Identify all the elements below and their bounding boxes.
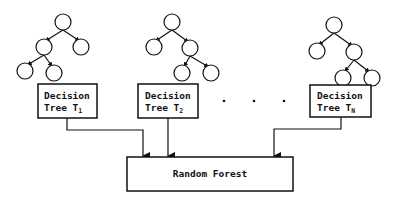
connector-tree-n: [274, 117, 341, 156]
ellipsis-dot: [223, 100, 226, 103]
tree-edge: [29, 55, 44, 64]
ellipsis-dots: [223, 100, 286, 103]
tree-n-graph: [309, 17, 380, 86]
connector-tree-1: [67, 118, 143, 156]
tree-1-graph: [17, 14, 89, 81]
tree-node: [36, 39, 52, 55]
tree-node: [335, 70, 351, 86]
tree-node: [46, 65, 62, 81]
tree-edge: [47, 30, 63, 40]
random-forest-diagram: Decision Tree T1 Decision Tree T2 Decisi…: [0, 0, 394, 202]
tree-edge: [334, 33, 351, 45]
tree-edge: [354, 60, 368, 71]
tree-n-subscript: N: [351, 107, 355, 115]
tree-2-graph: [146, 14, 219, 81]
tree-1-label-line1: Decision: [44, 90, 90, 101]
tree-node: [309, 43, 325, 59]
tree-edge: [320, 33, 334, 44]
decision-tree-n-box: Decision Tree TN: [310, 85, 371, 117]
random-forest-label: Random Forest: [173, 168, 247, 179]
tree-edge: [190, 56, 207, 66]
decision-tree-2-box: Decision Tree T2: [138, 84, 198, 118]
tree-node: [203, 65, 219, 81]
tree-node: [164, 14, 180, 30]
tree-edge: [172, 30, 187, 41]
tree-2-label-line1: Decision: [145, 90, 191, 101]
tree-node: [364, 70, 380, 86]
tree-edge: [157, 30, 172, 40]
random-forest-box: Random Forest: [127, 157, 293, 191]
tree-node: [73, 39, 89, 55]
tree-2-subscript: 2: [179, 107, 183, 115]
tree-node: [146, 39, 162, 55]
tree-edge: [185, 56, 190, 65]
tree-node: [55, 14, 71, 30]
tree-n-label-line1: Decision: [317, 90, 363, 101]
tree-2-label-line2: Tree T: [145, 102, 180, 113]
ellipsis-dot: [283, 100, 286, 103]
decision-tree-1-box: Decision Tree T1: [38, 84, 97, 118]
tree-1-label-line2: Tree T: [44, 102, 79, 113]
tree-edge: [346, 60, 354, 70]
tree-n-label-line2: Tree T: [317, 102, 352, 113]
tree-node: [182, 40, 198, 56]
ellipsis-dot: [253, 100, 256, 103]
tree-edge: [44, 55, 51, 65]
tree-node: [326, 17, 342, 33]
tree-edge: [63, 30, 78, 40]
tree-node: [346, 44, 362, 60]
tree-node: [174, 65, 190, 81]
tree-node: [17, 63, 33, 79]
tree-1-subscript: 1: [78, 107, 82, 115]
